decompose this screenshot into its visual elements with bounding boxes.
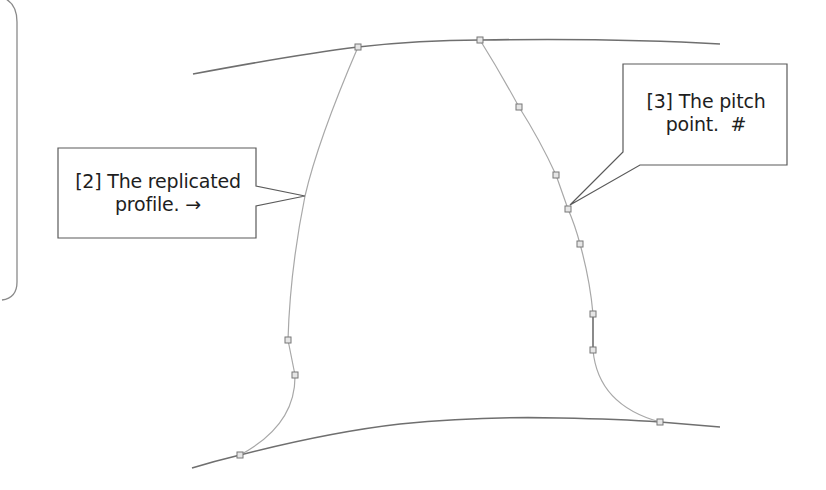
marker[interactable] — [292, 372, 298, 378]
callout-2-line-2: profile. → — [60, 193, 256, 216]
callout-3-line-1: [3] The pitch — [625, 90, 787, 113]
marker[interactable] — [657, 419, 663, 425]
gear-tooth-diagram — [0, 0, 826, 490]
replicated-profile — [240, 47, 358, 455]
side-panel-border — [2, 0, 17, 300]
callout-3-line-2: point. # — [625, 113, 787, 136]
marker[interactable] — [577, 241, 583, 247]
marker[interactable] — [355, 44, 361, 50]
pitch-point[interactable] — [565, 206, 571, 212]
callout-3-label: [3] The pitch point. # — [625, 90, 787, 136]
dedendum-arc — [192, 418, 720, 468]
marker[interactable] — [237, 452, 243, 458]
callout-2-label: [2] The replicated profile. → — [60, 170, 256, 216]
marker[interactable] — [477, 37, 483, 43]
profile-markers — [237, 37, 663, 458]
callout-2-line-1: [2] The replicated — [60, 170, 256, 193]
marker[interactable] — [553, 172, 559, 178]
marker[interactable] — [590, 311, 596, 317]
marker[interactable] — [516, 104, 522, 110]
marker[interactable] — [590, 347, 596, 353]
marker[interactable] — [285, 337, 291, 343]
